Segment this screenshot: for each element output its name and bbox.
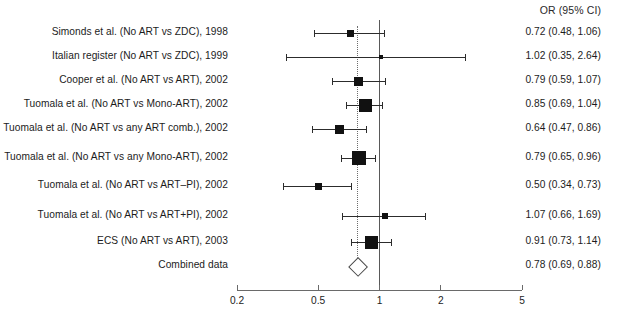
point-estimate-marker bbox=[354, 77, 363, 86]
point-estimate-marker bbox=[359, 99, 372, 112]
null-effect-line bbox=[379, 20, 380, 291]
confidence-interval-cap bbox=[351, 239, 352, 246]
point-estimate-marker bbox=[315, 183, 322, 190]
x-axis-tick bbox=[440, 285, 441, 290]
point-estimate-marker bbox=[347, 30, 354, 37]
point-estimate-marker bbox=[352, 151, 366, 165]
point-estimate-marker bbox=[379, 55, 383, 59]
confidence-interval-cap bbox=[366, 126, 367, 133]
pooled-estimate-line bbox=[357, 26, 358, 258]
confidence-interval-cap bbox=[465, 54, 466, 61]
confidence-interval-cap bbox=[385, 78, 386, 85]
x-axis-line bbox=[237, 290, 522, 291]
x-axis-tick-label: 0.2 bbox=[230, 295, 244, 306]
confidence-interval-cap bbox=[391, 239, 392, 246]
x-axis-tick-label: 0.5 bbox=[311, 295, 325, 306]
x-axis-tick bbox=[318, 285, 319, 290]
confidence-interval-cap bbox=[425, 213, 426, 220]
confidence-interval-cap bbox=[286, 54, 287, 61]
confidence-interval-cap bbox=[314, 30, 315, 37]
confidence-interval-cap bbox=[341, 155, 342, 162]
confidence-interval-cap bbox=[384, 30, 385, 37]
x-axis-tick bbox=[379, 285, 380, 290]
point-estimate-marker bbox=[365, 236, 378, 249]
plot-area: 0.20.5125 bbox=[0, 0, 618, 318]
confidence-interval-cap bbox=[375, 155, 376, 162]
x-axis-tick bbox=[522, 285, 523, 290]
x-axis-tick-label: 1 bbox=[377, 295, 383, 306]
confidence-interval-cap bbox=[312, 126, 313, 133]
confidence-interval-cap bbox=[351, 183, 352, 190]
x-axis-tick-label: 5 bbox=[519, 295, 525, 306]
point-estimate-marker bbox=[335, 125, 344, 134]
confidence-interval-cap bbox=[346, 102, 347, 109]
confidence-interval-cap bbox=[382, 102, 383, 109]
x-axis-tick bbox=[237, 285, 238, 290]
pooled-diamond bbox=[348, 257, 368, 277]
confidence-interval-cap bbox=[283, 183, 284, 190]
x-axis-tick-label: 2 bbox=[438, 295, 444, 306]
confidence-interval-line bbox=[287, 57, 466, 58]
point-estimate-marker bbox=[382, 213, 388, 219]
confidence-interval-cap bbox=[342, 213, 343, 220]
forest-plot-figure: OR (95% CI) Simonds et al. (No ART vs ZD… bbox=[0, 0, 618, 318]
confidence-interval-cap bbox=[332, 78, 333, 85]
